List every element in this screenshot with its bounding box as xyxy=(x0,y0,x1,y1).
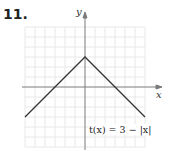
function-label: t(x) = 3 − |x| xyxy=(88,124,152,135)
y-axis-arrow-icon xyxy=(83,12,87,18)
x-axis-label: x xyxy=(156,89,162,100)
y-axis-label: y xyxy=(76,6,82,17)
